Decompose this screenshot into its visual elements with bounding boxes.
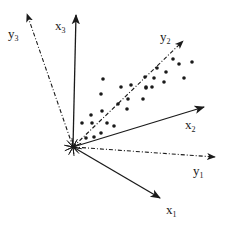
data-point [182,76,186,80]
axes-diagram: x1x2x3y1y2y3 [0,0,229,247]
data-point [171,57,175,61]
data-point [144,85,148,89]
axis-label-x3: x3 [55,18,66,35]
data-point [162,80,166,84]
axes-layer [27,14,215,198]
data-point [105,121,109,125]
data-point [177,62,181,66]
data-point [164,70,168,74]
data-point [89,113,93,117]
data-point [190,60,194,64]
data-point [116,102,120,106]
data-point [99,131,103,135]
axis-label-y3: y3 [8,26,19,43]
axis-label-x1: x1 [166,202,177,219]
data-point [129,83,133,87]
axis-label-x2: x2 [185,117,196,134]
axis-x3 [73,15,76,147]
data-point [99,92,103,96]
data-point [112,124,116,128]
axis-label-y1: y1 [193,163,204,180]
axis-y2 [73,41,183,147]
data-point [84,136,88,140]
data-point [125,107,129,111]
data-point [90,121,94,125]
data-point [80,121,84,125]
data-point [155,66,159,70]
data-point [126,97,130,101]
data-point [92,135,96,139]
axis-y1 [73,147,215,157]
axis-label-y2: y2 [160,29,171,46]
data-point [119,85,123,89]
diagram-canvas: x1x2x3y1y2y3 [0,0,229,247]
data-point [152,76,156,80]
data-point [150,85,154,89]
data-point [141,97,145,101]
axis-y3 [27,14,73,147]
data-point [143,75,147,79]
axis-x1 [73,147,160,198]
axis-labels: x1x2x3y1y2y3 [8,18,204,219]
data-point [101,77,105,81]
data-point [100,109,104,113]
